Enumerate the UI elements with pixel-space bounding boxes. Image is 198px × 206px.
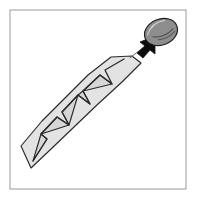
technical-drawing: [0, 0, 198, 206]
figure-container: [0, 0, 198, 206]
